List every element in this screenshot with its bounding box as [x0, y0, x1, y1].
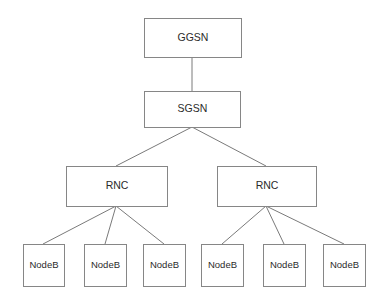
node-ggsn[interactable]: GGSN — [145, 19, 242, 58]
node-nodeb-1-label: NodeB — [29, 259, 58, 270]
edge-rnc-left-nodeb-3 — [116, 206, 164, 244]
node-nodeb-4[interactable]: NodeB — [202, 245, 244, 287]
node-sgsn-label: SGSN — [178, 102, 208, 114]
node-nodeb-3-label: NodeB — [150, 259, 179, 270]
node-rnc-left[interactable]: RNC — [67, 167, 168, 207]
edge-rnc-right-nodeb-6 — [266, 206, 344, 244]
node-sgsn[interactable]: SGSN — [145, 92, 241, 128]
diagram-canvas: GGSN SGSN RNC RNC NodeB NodeB NodeB — [0, 0, 385, 307]
node-rnc-right-label: RNC — [256, 179, 279, 191]
node-nodeb-6-label: NodeB — [330, 259, 359, 270]
edge-rnc-right-nodeb-5 — [266, 206, 284, 244]
network-hierarchy-diagram: GGSN SGSN RNC RNC NodeB NodeB NodeB — [0, 0, 385, 307]
node-rnc-left-label: RNC — [106, 179, 129, 191]
node-nodeb-3[interactable]: NodeB — [144, 245, 186, 287]
edge-sgsn-rnc-right — [192, 127, 266, 166]
edge-rnc-left-nodeb-2 — [105, 206, 116, 244]
edge-group — [43, 57, 344, 244]
node-nodeb-5-label: NodeB — [270, 259, 299, 270]
node-nodeb-1[interactable]: NodeB — [24, 245, 65, 287]
node-rnc-right[interactable]: RNC — [218, 167, 317, 207]
edge-rnc-left-nodeb-1 — [43, 206, 116, 244]
edge-sgsn-rnc-left — [116, 127, 192, 166]
node-nodeb-5[interactable]: NodeB — [264, 245, 306, 287]
node-nodeb-2[interactable]: NodeB — [85, 245, 127, 287]
edge-rnc-right-nodeb-4 — [222, 206, 266, 244]
node-ggsn-label: GGSN — [178, 31, 209, 43]
node-nodeb-4-label: NodeB — [208, 259, 237, 270]
node-nodeb-6[interactable]: NodeB — [324, 245, 366, 287]
node-nodeb-2-label: NodeB — [91, 259, 120, 270]
